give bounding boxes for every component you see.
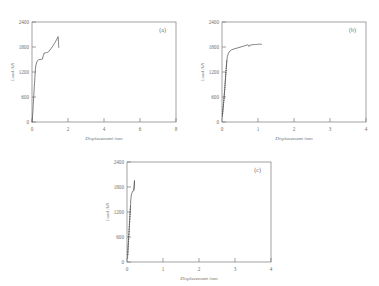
chart-a-yticklabel-0: 0: [26, 119, 29, 125]
chart-c-x-ticklabels: 0 1 2 3 4: [126, 266, 273, 272]
chart-c-xticklabel-1: 1: [162, 266, 165, 272]
chart-a-xticklabel-3: 6: [139, 126, 142, 132]
chart-a-xticklabel-4: 8: [175, 126, 178, 132]
chart-c-yticklabel-3: 1800: [114, 184, 125, 190]
chart-a-yticklabel-4: 2400: [19, 19, 30, 25]
chart-c-svg: 0 1 2 3 4 0 600 1200 1800 2400 Displacem…: [95, 146, 285, 286]
chart-b-svg: 0 1 2 3 4 0 600 1200 1800 2400 Displacem…: [190, 6, 379, 146]
chart-a-yaxis-title: Load /kN: [10, 62, 15, 82]
chart-a-xticklabel-1: 2: [67, 126, 70, 132]
chart-c-yticklabel-2: 1200: [114, 209, 125, 215]
chart-b-panel-label: (b): [349, 27, 356, 34]
chart-a-yticklabel-3: 1800: [19, 44, 30, 50]
chart-b-xticklabel-4: 4: [365, 126, 368, 132]
chart-b-x-ticks: [222, 118, 366, 122]
chart-c-xticklabel-3: 3: [234, 266, 237, 272]
chart-a-panel-label: (a): [159, 27, 166, 34]
chart-b-y-ticks: [222, 22, 226, 122]
chart-c-y-ticklabels: 0 600 1200 1800 2400: [114, 159, 125, 265]
chart-b-curve: [222, 44, 261, 117]
chart-a-xticklabel-2: 4: [103, 126, 106, 132]
chart-b-yticklabel-4: 2400: [209, 19, 220, 25]
chart-c-yticklabel-1: 600: [116, 234, 124, 240]
chart-a-axes: [32, 22, 176, 122]
chart-a-svg: 0 2 4 6 8 0 600 1200 1800 2400 Displacem…: [0, 6, 190, 146]
chart-panel-a: 0 2 4 6 8 0 600 1200 1800 2400 Displacem…: [0, 6, 190, 146]
chart-b-y-ticklabels: 0 600 1200 1800 2400: [209, 19, 220, 125]
chart-b-xticklabel-2: 2: [293, 126, 296, 132]
chart-b-xticklabel-3: 3: [329, 126, 332, 132]
chart-c-xaxis-title: Displacement /mm: [179, 276, 218, 281]
chart-a-x-ticklabels: 0 2 4 6 8: [31, 126, 178, 132]
chart-a-y-ticklabels: 0 600 1200 1800 2400: [19, 19, 30, 125]
chart-c-yticklabel-4: 2400: [114, 159, 125, 165]
chart-b-axes: [222, 22, 366, 122]
chart-panel-c: 0 1 2 3 4 0 600 1200 1800 2400 Displacem…: [95, 146, 285, 286]
figure-panel-group: 0 2 4 6 8 0 600 1200 1800 2400 Displacem…: [0, 0, 379, 286]
chart-c-xticklabel-0: 0: [126, 266, 129, 272]
chart-b-yticklabel-2: 1200: [209, 69, 220, 75]
chart-b-yticklabel-3: 1800: [209, 44, 220, 50]
chart-c-xticklabel-4: 4: [270, 266, 273, 272]
chart-c-x-ticks: [127, 258, 271, 262]
chart-a-xticklabel-0: 0: [31, 126, 34, 132]
chart-b-yaxis-title: Load /kN: [200, 62, 205, 82]
chart-c-curve: [128, 181, 135, 259]
chart-b-xticklabel-0: 0: [221, 126, 224, 132]
chart-b-xaxis-title: Displacement /mm: [274, 136, 313, 141]
chart-a-yticklabel-2: 1200: [19, 69, 30, 75]
chart-panel-b: 0 1 2 3 4 0 600 1200 1800 2400 Displacem…: [190, 6, 379, 146]
chart-c-yticklabel-0: 0: [121, 259, 124, 265]
chart-c-yaxis-title: Load /kN: [105, 202, 110, 222]
chart-a-x-ticks: [32, 118, 176, 122]
chart-a-curve: [32, 37, 59, 122]
chart-b-xticklabel-1: 1: [257, 126, 260, 132]
chart-b-yticklabel-1: 600: [211, 94, 219, 100]
chart-b-yticklabel-0: 0: [216, 119, 219, 125]
chart-a-xaxis-title: Displacement /mm: [84, 136, 123, 141]
chart-b-x-ticklabels: 0 1 2 3 4: [221, 126, 368, 132]
chart-a-yticklabel-1: 600: [21, 94, 29, 100]
chart-c-xticklabel-2: 2: [198, 266, 201, 272]
chart-c-panel-label: (c): [254, 167, 261, 174]
chart-c-axes: [127, 162, 271, 262]
